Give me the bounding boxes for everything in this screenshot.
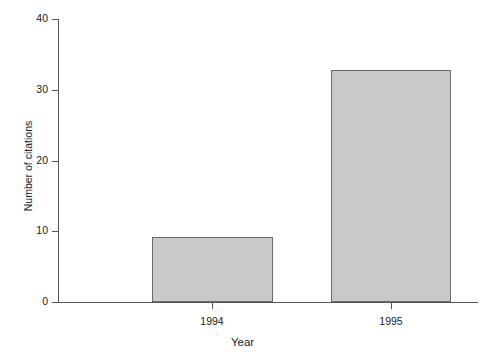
y-axis-title: Number of citations bbox=[22, 121, 34, 211]
y-tick-mark bbox=[52, 90, 58, 91]
y-tick-label: 40 bbox=[36, 13, 48, 24]
y-axis-title-wrap: Number of citations bbox=[22, 160, 34, 172]
bar bbox=[331, 70, 451, 302]
x-axis-title: Year bbox=[0, 335, 485, 349]
y-tick-label-wrap: 0 bbox=[0, 296, 48, 307]
x-tick-mark bbox=[391, 303, 392, 309]
y-tick-label: 20 bbox=[36, 155, 48, 166]
x-tick-label-wrap: 1994 bbox=[172, 311, 252, 329]
bar-chart: 010203040 19941995 Number of citations Y… bbox=[0, 0, 485, 357]
y-tick-mark bbox=[52, 161, 58, 162]
x-tick-label: 1994 bbox=[200, 315, 223, 327]
y-tick-mark bbox=[52, 231, 58, 232]
x-tick-mark bbox=[212, 303, 213, 309]
y-tick-label-wrap: 30 bbox=[0, 84, 48, 95]
y-tick-label: 0 bbox=[42, 296, 48, 307]
y-tick-mark bbox=[52, 302, 58, 303]
y-tick-label: 10 bbox=[36, 225, 48, 236]
x-tick-label: 1995 bbox=[379, 315, 402, 327]
y-tick-label: 30 bbox=[36, 84, 48, 95]
x-axis-line bbox=[58, 302, 478, 303]
y-axis-line bbox=[58, 19, 59, 303]
x-tick-label-wrap: 1995 bbox=[351, 311, 431, 329]
y-tick-mark bbox=[52, 19, 58, 20]
y-tick-label-wrap: 10 bbox=[0, 225, 48, 236]
y-tick-label-wrap: 40 bbox=[0, 13, 48, 24]
bar bbox=[152, 237, 273, 302]
